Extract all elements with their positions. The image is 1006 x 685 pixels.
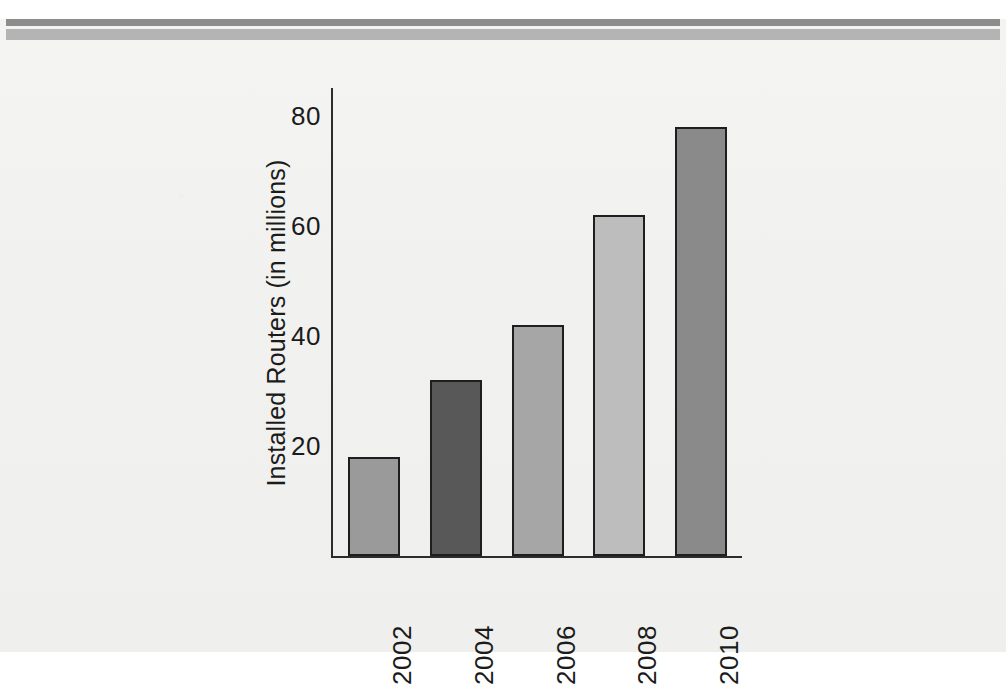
plot-area — [333, 88, 742, 556]
x-axis-tick-2008: 2008 — [632, 565, 663, 685]
y-axis-tick-60: 60 — [261, 213, 321, 239]
x-axis-tick-2004: 2004 — [469, 565, 500, 685]
x-axis-tick-2010: 2010 — [714, 565, 745, 685]
x-axis-tick-2006: 2006 — [551, 565, 582, 685]
y-axis-tick-20: 20 — [261, 433, 321, 459]
x-axis-line — [331, 556, 742, 558]
bar-2010[interactable] — [675, 127, 727, 556]
bar-slot — [430, 88, 482, 556]
bar-chart: Installed Routers (in millions) 20406080… — [0, 40, 1006, 652]
y-axis-tick-40: 40 — [261, 323, 321, 349]
bar-2004[interactable] — [430, 380, 482, 556]
bar-slot — [675, 88, 727, 556]
bar-2002[interactable] — [348, 457, 400, 556]
bar-2008[interactable] — [593, 215, 645, 556]
x-axis-tick-2002: 2002 — [387, 565, 418, 685]
header-rule-light — [6, 29, 1000, 40]
bar-2006[interactable] — [512, 325, 564, 556]
y-axis-tick-labels: 20406080 — [255, 40, 321, 600]
bar-slot — [593, 88, 645, 556]
bar-slot — [348, 88, 400, 556]
y-axis-tick-80: 80 — [261, 103, 321, 129]
bar-slot — [512, 88, 564, 556]
header-rule-dark — [6, 19, 1000, 26]
page-top-margin — [0, 0, 1006, 19]
